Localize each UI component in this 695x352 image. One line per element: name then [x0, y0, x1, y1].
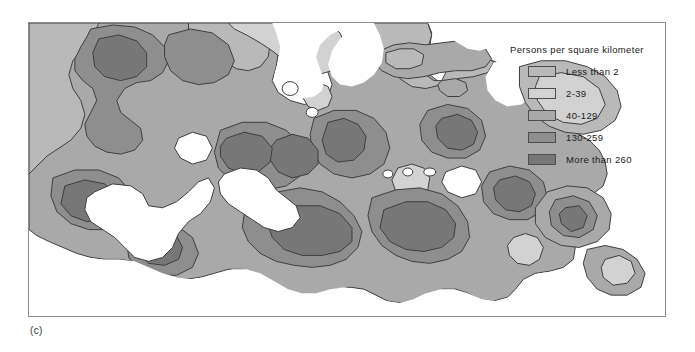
legend-swatch-less-than-2: [528, 66, 556, 77]
legend-title: Persons per square kilometer: [510, 44, 660, 55]
figure-caption: (c): [30, 325, 43, 336]
region-no-data-dot: [424, 168, 436, 176]
legend-swatch-more-than-260: [528, 154, 556, 165]
region-class-more-than-260: [270, 134, 318, 178]
legend-item-less-than-2: Less than 2: [528, 66, 660, 77]
region-no-data-dot: [383, 170, 393, 178]
legend-item-more-than-260: More than 260: [528, 154, 660, 165]
region-no-data-dot: [403, 168, 413, 176]
region-no-data-dot: [306, 107, 318, 117]
legend-item-2-39: 2-39: [528, 88, 660, 99]
legend-swatch-2-39: [528, 88, 556, 99]
legend-label-more-than-260: More than 260: [566, 154, 632, 165]
map-legend: Persons per square kilometer Less than 2…: [510, 44, 660, 176]
legend-label-less-than-2: Less than 2: [566, 66, 619, 77]
legend-swatch-130-259: [528, 132, 556, 143]
legend-label-130-259: 130-259: [566, 132, 603, 143]
legend-label-40-129: 40-129: [566, 110, 598, 121]
legend-item-130-259: 130-259: [528, 132, 660, 143]
figure-root: Persons per square kilometer Less than 2…: [0, 0, 695, 352]
legend-swatch-40-129: [528, 110, 556, 121]
legend-label-2-39: 2-39: [566, 88, 586, 99]
region-no-data-dot: [282, 82, 298, 96]
region-island-top-inner: [386, 49, 424, 69]
legend-item-40-129: 40-129: [528, 110, 660, 121]
